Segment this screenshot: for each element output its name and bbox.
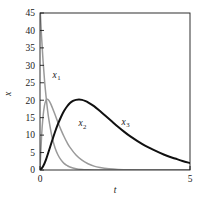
- y-tick-label: 25: [26, 78, 36, 88]
- y-axis-title: x: [3, 91, 13, 97]
- y-tick-label: 45: [26, 8, 36, 18]
- x-tick-label: 5: [188, 174, 193, 184]
- x-axis-title: t: [114, 185, 117, 195]
- y-tick-label: 5: [30, 148, 35, 158]
- chart-figure: 051015202530354045 05 x t x1x2x3: [0, 0, 202, 200]
- line-chart: 051015202530354045 05 x t x1x2x3: [0, 0, 202, 200]
- x-tick-label: 0: [38, 174, 43, 184]
- y-tick-label: 35: [26, 43, 36, 53]
- y-tick-label: 0: [30, 165, 35, 175]
- y-tick-label: 20: [26, 96, 36, 106]
- y-tick-label: 15: [26, 113, 36, 123]
- y-tick-label: 30: [26, 61, 36, 71]
- y-tick-label: 40: [26, 26, 36, 36]
- y-tick-label: 10: [26, 130, 36, 140]
